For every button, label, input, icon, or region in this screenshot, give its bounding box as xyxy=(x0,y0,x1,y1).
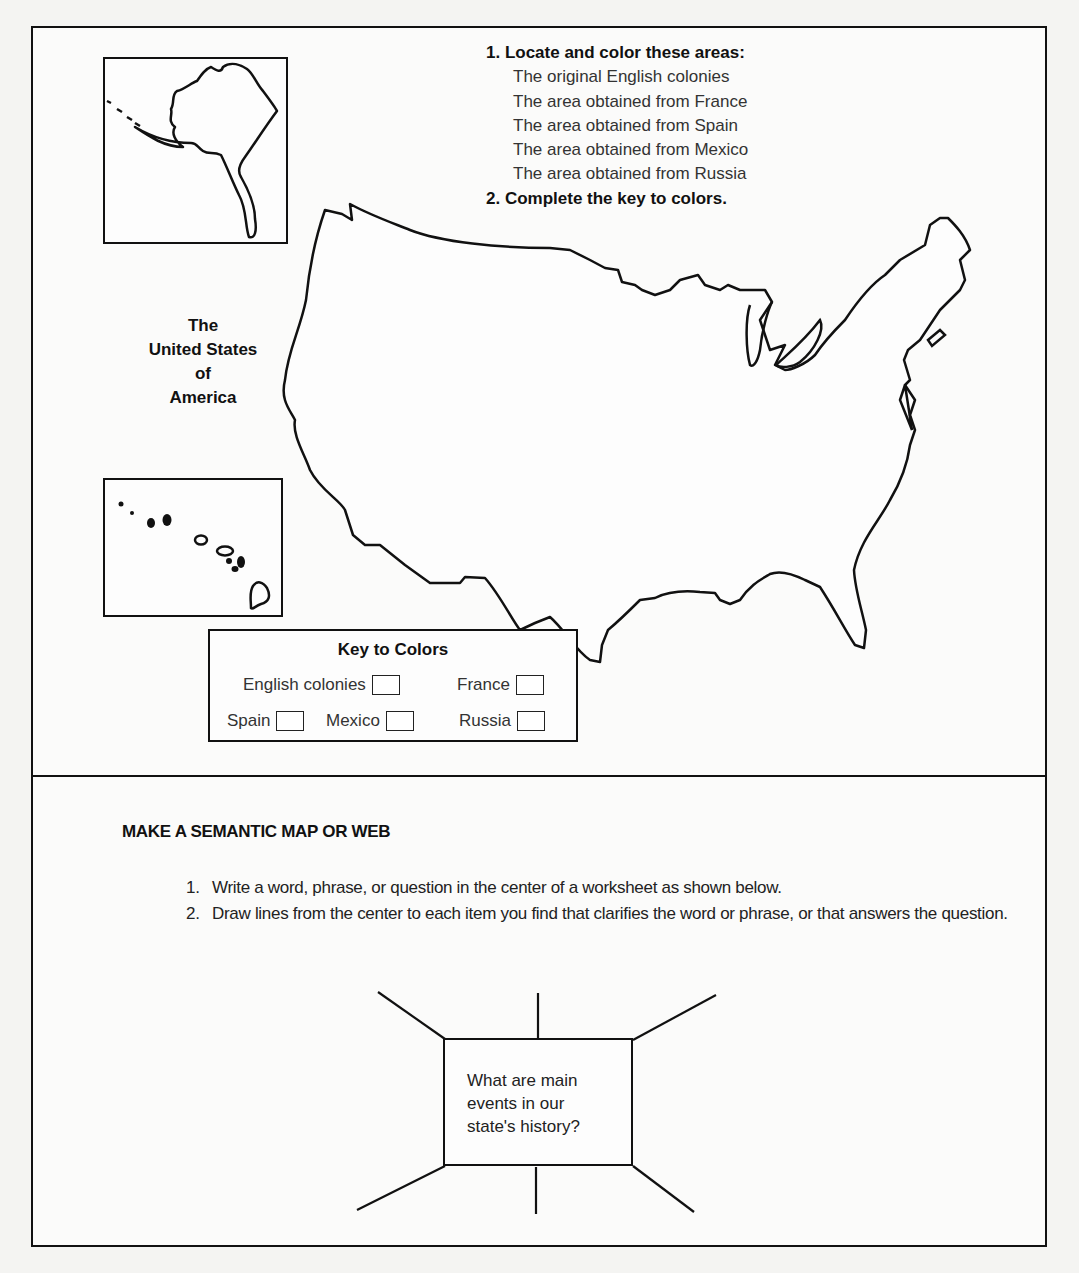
map-title-line: America xyxy=(128,386,278,410)
instruction-step-1: 1. Locate and color these areas: xyxy=(486,41,748,65)
step-text: Draw lines from the center to each item … xyxy=(212,902,1008,926)
hawaii-map-icon xyxy=(105,480,285,619)
map-title-line: The xyxy=(128,314,278,338)
key-label: Spain xyxy=(227,711,270,731)
step-item: 1. Write a word, phrase, or question in … xyxy=(186,876,1016,900)
russia-color-swatch[interactable] xyxy=(517,711,545,731)
key-label: Russia xyxy=(459,711,511,731)
key-label: English colonies xyxy=(243,675,366,695)
area-item: The original English colonies xyxy=(486,65,748,89)
key-item-mexico: Mexico xyxy=(326,711,414,731)
question-line: state's history? xyxy=(467,1115,627,1138)
english-colonies-color-swatch[interactable] xyxy=(372,675,400,695)
mexico-color-swatch[interactable] xyxy=(386,711,414,731)
area-item: The area obtained from Spain xyxy=(486,114,748,138)
map-title-line: United States xyxy=(128,338,278,362)
alaska-inset xyxy=(103,57,288,244)
map-instructions: 1. Locate and color these areas: The ori… xyxy=(486,41,748,211)
semantic-web-question: What are main events in our state's hist… xyxy=(467,1069,627,1138)
hawaii-inset xyxy=(103,478,283,617)
key-label: France xyxy=(457,675,510,695)
key-item-russia: Russia xyxy=(459,711,545,731)
map-title-line: of xyxy=(128,362,278,386)
key-item-france: France xyxy=(457,675,544,695)
key-label: Mexico xyxy=(326,711,380,731)
area-item: The area obtained from France xyxy=(486,90,748,114)
area-item: The area obtained from Mexico xyxy=(486,138,748,162)
question-line: What are main xyxy=(467,1069,627,1092)
color-key: Key to Colors English colonies France Sp… xyxy=(208,629,578,742)
area-item: The area obtained from Russia xyxy=(486,162,748,186)
section-title: MAKE A SEMANTIC MAP OR WEB xyxy=(122,822,390,842)
spain-color-swatch[interactable] xyxy=(276,711,304,731)
step-item: 2. Draw lines from the center to each it… xyxy=(186,902,1016,926)
step-number: 2. xyxy=(186,902,212,926)
step-text: Write a word, phrase, or question in the… xyxy=(212,876,782,900)
semantic-map-steps: 1. Write a word, phrase, or question in … xyxy=(186,876,1016,926)
key-item-spain: Spain xyxy=(227,711,304,731)
section-divider xyxy=(31,775,1047,777)
map-title: The United States of America xyxy=(128,314,278,410)
usa-outline-map-icon[interactable] xyxy=(280,190,980,660)
alaska-map-icon xyxy=(105,59,290,246)
color-key-title: Key to Colors xyxy=(210,640,576,660)
key-item-english-colonies: English colonies xyxy=(243,675,400,695)
step-number: 1. xyxy=(186,876,212,900)
semantic-web-center-box: What are main events in our state's hist… xyxy=(443,1038,633,1166)
france-color-swatch[interactable] xyxy=(516,675,544,695)
question-line: events in our xyxy=(467,1092,627,1115)
